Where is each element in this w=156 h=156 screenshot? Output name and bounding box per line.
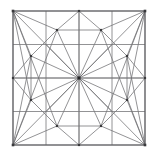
node-edge-right-mid <box>144 77 146 79</box>
mesh-edge <box>101 30 145 145</box>
mesh-edge <box>127 56 145 145</box>
node-edge-top-mid <box>78 10 80 12</box>
mesh-edge <box>13 56 31 78</box>
mesh-edge <box>79 45 112 79</box>
mesh-edge <box>46 78 79 112</box>
node-inner-bottom-left <box>56 125 58 127</box>
mesh-edge <box>57 30 79 78</box>
mesh-edge <box>13 78 31 100</box>
mesh-edge <box>57 11 79 30</box>
node-corner-top-left <box>12 10 15 13</box>
mesh-edge <box>46 45 79 79</box>
mesh-edge <box>13 56 31 145</box>
node-corner-top-right <box>144 10 147 13</box>
mesh-edge <box>79 78 101 126</box>
mesh-edge <box>79 56 127 78</box>
mesh-edge <box>79 78 112 112</box>
mesh-edge <box>57 126 79 145</box>
mesh-edge <box>31 56 79 78</box>
node-inner-left-top <box>30 55 32 57</box>
node-inner-top-right <box>100 29 102 31</box>
mesh-edge <box>79 11 101 30</box>
geometric-figure-canvas <box>0 0 156 156</box>
mesh-edge <box>57 78 79 126</box>
mesh-edge <box>127 56 145 78</box>
node-edge-left-mid <box>12 77 14 79</box>
node-inner-right-top <box>126 55 128 57</box>
node-inner-left-bottom <box>30 99 32 101</box>
node-inner-right-bottom <box>126 99 128 101</box>
mesh-edge <box>31 78 79 100</box>
mesh-edge <box>79 126 101 145</box>
node-inner-bottom-right <box>100 125 102 127</box>
node-corner-bottom-left <box>12 144 15 147</box>
mesh-edge <box>13 30 57 145</box>
mesh-edge <box>127 11 145 100</box>
mesh-edge <box>13 11 31 100</box>
node-center-hub <box>78 77 81 80</box>
node-edge-bottom-mid <box>78 144 80 146</box>
mesh-edge <box>13 11 57 126</box>
mesh-edge <box>79 78 127 100</box>
node-corner-bottom-right <box>144 144 147 147</box>
node-inner-top-left <box>56 29 58 31</box>
mesh-edge <box>79 30 101 78</box>
mesh-edge <box>101 11 145 126</box>
mesh-diagram <box>0 0 156 156</box>
mesh-edge <box>127 78 145 100</box>
